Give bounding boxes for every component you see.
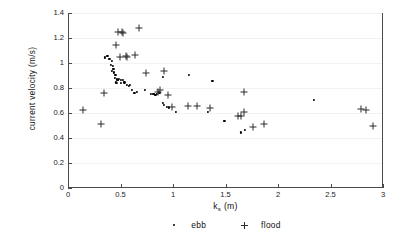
data-point-flood xyxy=(164,92,171,99)
y-axis-tick-label: 0.6 xyxy=(36,109,64,117)
x-axis-tick-mark xyxy=(331,184,332,188)
data-point-flood xyxy=(193,103,200,110)
gridline-horizontal xyxy=(69,88,382,89)
data-point-flood xyxy=(142,70,149,77)
data-point-flood xyxy=(362,106,369,113)
data-point-flood xyxy=(100,89,107,96)
x-axis-tick-label: 0.5 xyxy=(106,190,136,199)
data-point-flood xyxy=(240,89,247,96)
gridline-horizontal xyxy=(69,113,382,114)
plot-area xyxy=(68,13,383,188)
y-axis-tick-label: 0.8 xyxy=(36,84,64,92)
y-axis-tick-mark xyxy=(68,138,72,139)
y-axis-tick-label: 0.2 xyxy=(36,159,64,167)
x-axis-tick-mark xyxy=(68,184,69,188)
scatter-chart-figure: current velocity (m/s) 00.20.40.60.811.2… xyxy=(0,0,400,243)
gridline-horizontal xyxy=(69,63,382,64)
data-point-flood xyxy=(136,24,143,31)
x-axis-label-subscript: s xyxy=(218,205,221,212)
x-axis-tick-label: 0 xyxy=(53,190,83,199)
legend-item-ebb: ebb xyxy=(170,220,206,230)
y-axis-tick-mark xyxy=(68,63,72,64)
x-axis-label: ks (m) xyxy=(68,201,383,211)
data-point-flood xyxy=(206,104,213,111)
x-axis-label-unit: (m) xyxy=(221,201,237,211)
y-axis-tick-mark xyxy=(68,13,72,14)
y-axis-tick-mark xyxy=(68,38,72,39)
data-point-flood xyxy=(80,106,87,113)
y-axis-tick-mark xyxy=(68,88,72,89)
y-axis-tick-label: 1.4 xyxy=(36,9,64,17)
legend-item-flood: flood xyxy=(240,220,281,230)
data-point-flood xyxy=(261,121,268,128)
data-point-flood xyxy=(241,109,248,116)
y-axis-tick-label: 1 xyxy=(36,59,64,67)
data-point-flood xyxy=(370,123,377,130)
gridline-horizontal xyxy=(69,163,382,164)
data-point-flood xyxy=(249,124,256,131)
x-axis-tick-label: 3 xyxy=(368,190,398,199)
data-point-flood xyxy=(124,53,131,60)
gridline-horizontal xyxy=(69,38,382,39)
gridline-horizontal xyxy=(69,138,382,139)
data-point-flood xyxy=(184,102,191,109)
data-point-flood xyxy=(120,30,127,37)
data-point-flood xyxy=(160,67,167,74)
data-point-flood xyxy=(156,87,163,94)
legend-label-flood: flood xyxy=(261,220,281,230)
y-axis-tick-mark xyxy=(68,113,72,114)
gridline-horizontal xyxy=(69,13,382,14)
ebb-dot-marker-icon xyxy=(170,221,178,229)
x-axis-tick-label: 2.5 xyxy=(316,190,346,199)
data-point-flood xyxy=(169,104,176,111)
legend-label-ebb: ebb xyxy=(191,220,206,230)
y-axis-tick-label: 0.4 xyxy=(36,134,64,142)
chart-legend: ebb flood xyxy=(68,220,383,230)
y-axis-tick-mark xyxy=(68,163,72,164)
x-axis-tick-mark xyxy=(121,184,122,188)
data-point-flood xyxy=(98,121,105,128)
x-axis-tick-mark xyxy=(278,184,279,188)
x-axis-tick-mark xyxy=(226,184,227,188)
y-axis-tick-label: 1.2 xyxy=(36,34,64,42)
y-axis-tick-mark xyxy=(68,188,72,189)
data-point-flood xyxy=(113,41,120,48)
x-axis-tick-label: 1.5 xyxy=(211,190,241,199)
x-axis-tick-mark xyxy=(173,184,174,188)
x-axis-tick-mark xyxy=(383,184,384,188)
x-axis-tick-label: 1 xyxy=(158,190,188,199)
x-axis-tick-label: 2 xyxy=(263,190,293,199)
data-point-flood xyxy=(132,51,139,58)
flood-plus-marker-icon xyxy=(240,221,248,229)
